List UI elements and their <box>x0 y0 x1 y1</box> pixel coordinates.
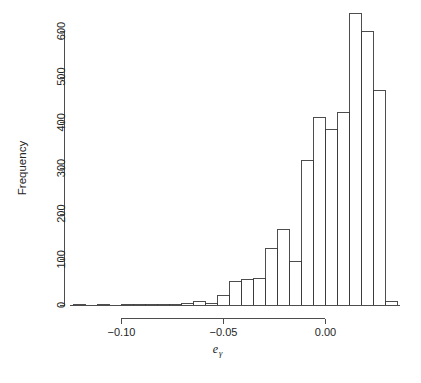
histogram-bar <box>338 113 350 306</box>
x-axis-title: e γ <box>213 342 223 358</box>
histogram-bar <box>230 282 242 306</box>
y-axis-tick-label: 200 <box>55 204 67 222</box>
histogram-bar <box>362 32 374 306</box>
y-axis-title: Frequency <box>16 141 28 196</box>
x-axis-title-base: e <box>213 342 219 356</box>
y-axis-tick-label: 0 <box>55 302 67 308</box>
x-axis: −0.10−0.050.00 <box>108 319 337 338</box>
histogram-bar <box>278 229 290 305</box>
histogram-plot: 0100200300400500600 −0.10−0.050.00 Frequ… <box>0 0 421 383</box>
histogram-bar <box>374 91 386 306</box>
histogram-bar <box>194 301 206 305</box>
histogram-bar <box>266 248 278 305</box>
y-axis-tick-label: 600 <box>55 22 67 40</box>
histogram-bar <box>350 13 362 305</box>
histogram-bar <box>218 296 230 306</box>
x-axis-tick-label: −0.05 <box>210 326 238 338</box>
histogram-bar <box>326 130 338 306</box>
x-axis-tick-label: −0.10 <box>108 326 136 338</box>
histogram-bar <box>242 279 254 305</box>
y-axis-tick-label: 500 <box>55 67 67 85</box>
x-axis-tick-label: 0.00 <box>315 326 336 338</box>
y-axis: 0100200300400500600 <box>55 22 67 308</box>
histogram-bars <box>74 13 398 305</box>
x-axis-title-subscript: γ <box>219 348 223 358</box>
y-axis-tick-label: 100 <box>55 250 67 268</box>
histogram-bar <box>314 117 326 305</box>
histogram-bar <box>302 160 314 305</box>
figure-root: 0100200300400500600 −0.10−0.050.00 Frequ… <box>0 0 421 383</box>
y-axis-tick-label: 300 <box>55 159 67 177</box>
histogram-bar <box>254 279 266 306</box>
y-axis-tick-label: 400 <box>55 113 67 131</box>
histogram-bar-tail <box>386 302 398 306</box>
histogram-bar <box>290 261 302 305</box>
